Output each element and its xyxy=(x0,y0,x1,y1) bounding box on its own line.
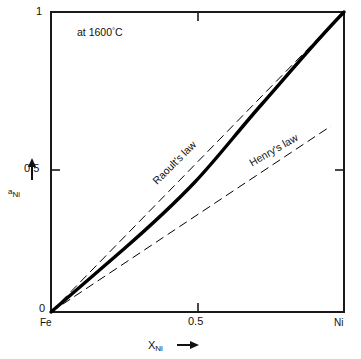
raoults-law-line xyxy=(51,12,344,312)
temperature-value: 1600 xyxy=(89,26,112,38)
x-axis-arrow-icon xyxy=(177,341,199,349)
x-endpoint-label-ni: Ni xyxy=(334,318,343,328)
chart-canvas xyxy=(0,0,361,359)
y-axis-title-subscript: Ni xyxy=(12,190,20,199)
y-axis-title: aNi xyxy=(8,186,20,199)
x-tick-label-0.5: 0.5 xyxy=(188,316,203,327)
y-tick-label-1: 1 xyxy=(36,6,42,17)
activity-diagram-figure: 1 0.5 0 0.5 Fe Ni at 1600°C aNi XNi Raou… xyxy=(0,0,361,359)
y-tick-label-0.5: 0.5 xyxy=(24,163,39,174)
y-tick-label-0: 0 xyxy=(39,303,45,314)
temperature-annotation: at 1600°C xyxy=(77,27,123,38)
x-axis-title: XNi xyxy=(148,340,163,353)
temperature-prefix: at xyxy=(77,26,89,38)
x-endpoint-label-fe: Fe xyxy=(40,318,52,328)
temperature-unit: C xyxy=(115,26,123,38)
x-axis-title-subscript: Ni xyxy=(155,344,163,353)
